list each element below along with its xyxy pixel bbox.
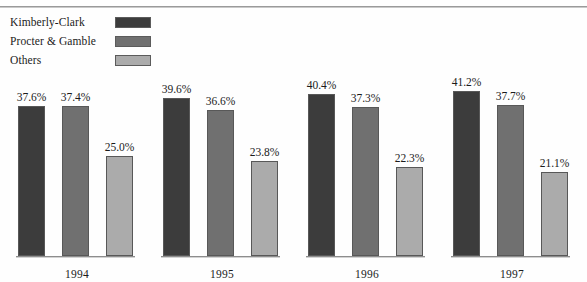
bar	[207, 110, 234, 256]
group-baseline	[306, 256, 425, 258]
bar-slot: 23.8%	[251, 56, 278, 256]
bar-slot: 41.2%	[453, 56, 480, 256]
group-baseline	[451, 256, 570, 258]
bar-slot: 21.1%	[541, 56, 568, 256]
bar-value-label: 22.3%	[395, 152, 425, 164]
x-axis-tick-label: 1994	[18, 268, 136, 280]
x-axis-tick-label: 1996	[308, 268, 426, 280]
bar-value-label: 21.1%	[540, 157, 570, 169]
bar-value-label: 37.6%	[17, 91, 47, 103]
bar	[308, 94, 335, 256]
x-axis-tick-label: 1997	[453, 268, 571, 280]
bar-value-label: 36.6%	[206, 95, 236, 107]
bar-value-label: 37.7%	[496, 90, 526, 102]
bar-slot: 37.7%	[497, 56, 524, 256]
bar	[62, 106, 89, 256]
bar	[163, 98, 190, 256]
bar-slot: 25.0%	[106, 56, 133, 256]
bar	[106, 156, 133, 256]
bar-slot: 37.3%	[352, 56, 379, 256]
bar-slot: 36.6%	[207, 56, 234, 256]
bar-value-label: 41.2%	[452, 76, 482, 88]
bar-slot: 39.6%	[163, 56, 190, 256]
bar	[251, 161, 278, 256]
bar	[18, 106, 45, 256]
bar-chart: Kimberly-ClarkProcter & GambleOthers 37.…	[0, 0, 587, 282]
bar	[453, 91, 480, 256]
group-baseline	[16, 256, 135, 258]
bar	[497, 105, 524, 256]
bar	[352, 107, 379, 256]
group-baseline	[161, 256, 280, 258]
bar	[541, 172, 568, 256]
bar-slot: 40.4%	[308, 56, 335, 256]
bar-slot: 22.3%	[396, 56, 423, 256]
bar-group: 40.4%37.3%22.3%1996	[308, 0, 426, 282]
bar-slot: 37.6%	[18, 56, 45, 256]
bar-group: 39.6%36.6%23.8%1995	[163, 0, 281, 282]
bar-value-label: 40.4%	[307, 79, 337, 91]
bar-value-label: 37.3%	[351, 92, 381, 104]
x-axis-tick-label: 1995	[163, 268, 281, 280]
bar-value-label: 25.0%	[105, 141, 135, 153]
plot-area: 37.6%37.4%25.0%199439.6%36.6%23.8%199540…	[0, 0, 587, 282]
bar-value-label: 23.8%	[250, 146, 280, 158]
bar-slot: 37.4%	[62, 56, 89, 256]
bar-group: 41.2%37.7%21.1%1997	[453, 0, 571, 282]
bar	[396, 167, 423, 256]
bar-value-label: 37.4%	[61, 91, 91, 103]
bar-value-label: 39.6%	[162, 83, 192, 95]
bar-group: 37.6%37.4%25.0%1994	[18, 0, 136, 282]
